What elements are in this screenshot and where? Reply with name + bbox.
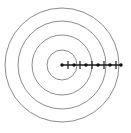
ray-point-0 <box>60 63 63 66</box>
ray-point-1 <box>72 63 75 66</box>
ray-point-4 <box>108 63 111 66</box>
figure-canvas <box>0 0 131 133</box>
concentric-circles-diagram <box>0 0 131 133</box>
ray-point-2 <box>84 63 87 66</box>
ray-point-3 <box>96 63 99 66</box>
ray-point-5 <box>119 63 122 66</box>
